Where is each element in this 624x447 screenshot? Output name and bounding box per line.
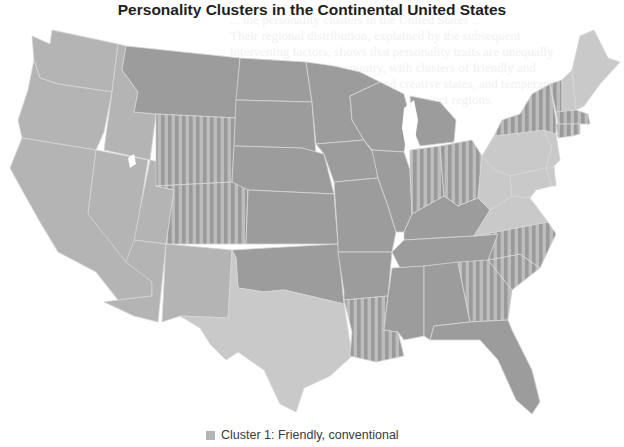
- state-ri: [572, 124, 580, 136]
- legend-label-cluster-1: Cluster 1: Friendly, conventional: [221, 428, 399, 442]
- state-ma: [556, 110, 590, 124]
- state-oh: [440, 140, 482, 206]
- legend-swatch-cluster-1: [206, 431, 215, 440]
- state-ny: [494, 84, 556, 136]
- state-ne: [232, 146, 334, 194]
- state-fl: [430, 320, 540, 414]
- us-map: [0, 0, 624, 447]
- state-mt: [122, 46, 240, 118]
- state-sd: [234, 100, 316, 154]
- state-wy: [156, 114, 236, 186]
- state-nm: [162, 244, 232, 322]
- state-ar: [338, 252, 392, 300]
- state-nd: [236, 58, 312, 102]
- state-ks: [246, 190, 338, 244]
- state-me: [572, 30, 620, 110]
- legend: Cluster 1: Friendly, conventional: [206, 428, 399, 442]
- state-ct: [556, 124, 572, 138]
- map-title: Personality Clusters in the Continental …: [0, 1, 624, 19]
